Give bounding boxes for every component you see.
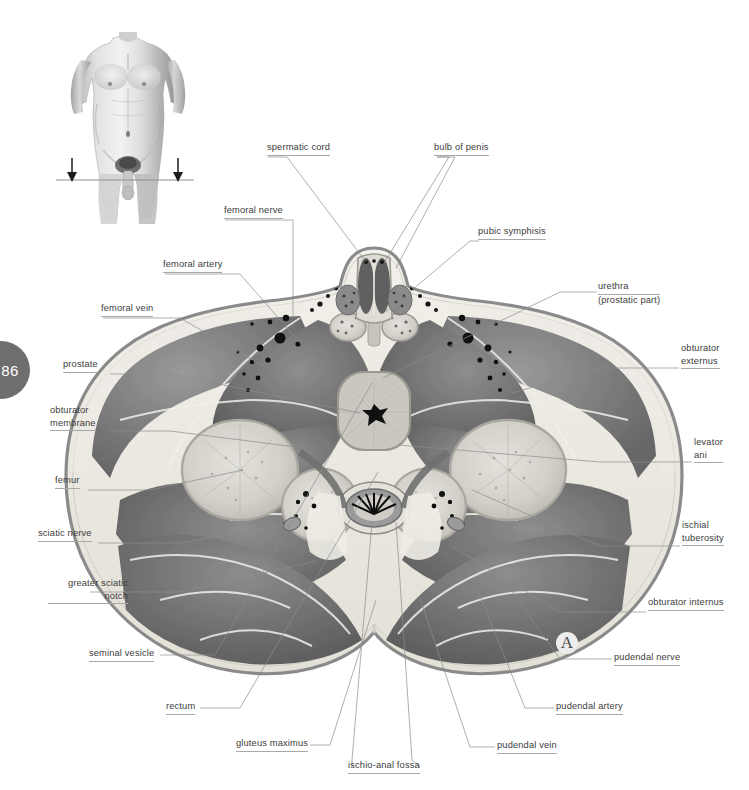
label-greater-sciatic-notch-line-2: notch [48, 591, 128, 605]
label-obturator-externus-line-2: externus [681, 356, 720, 370]
label-femur: femur [55, 475, 80, 489]
label-ischial-tuberosity: ischialtuberosity [682, 520, 724, 546]
label-urethra-line-2: (prostatic part) [598, 295, 660, 308]
label-pudendal-nerve-line-1: pudendal nerve [614, 652, 680, 666]
label-gluteus-maximus-line-1: gluteus maximus [236, 738, 308, 752]
label-femoral-artery: femoral artery [163, 259, 222, 273]
label-seminal-vesicle-line-1: seminal vesicle [89, 648, 154, 662]
label-pudendal-artery-line-1: pudendal artery [556, 701, 623, 715]
label-rectum: rectum [166, 701, 195, 715]
label-femoral-artery-line-1: femoral artery [163, 259, 222, 273]
label-spermatic-cord: spermatic cord [267, 142, 330, 156]
label-spermatic-cord-line-1: spermatic cord [267, 142, 330, 156]
label-prostate-line-1: prostate [63, 359, 98, 373]
label-prostate: prostate [63, 359, 98, 373]
label-sciatic-nerve-line-1: sciatic nerve [38, 528, 92, 542]
label-obturator-membrane: obturatormembrane [50, 405, 96, 431]
leader-line-bulb-of-penis-b [396, 157, 455, 268]
label-levator-ani-line-1: levator [694, 437, 723, 450]
label-bulb-of-penis: bulb of penis [434, 142, 489, 156]
leader-line-bulb-of-penis-a [384, 157, 449, 263]
label-gluteus-maximus: gluteus maximus [236, 738, 308, 752]
label-obturator-membrane-line-2: membrane [50, 418, 96, 432]
label-pubic-symphisis-line-1: pubic symphisis [478, 226, 546, 240]
label-femoral-nerve-line-1: femoral nerve [224, 205, 283, 219]
label-femur-line-1: femur [55, 475, 80, 489]
label-urethra-line-1: urethra [598, 281, 660, 295]
label-obturator-internus-line-1: obturator internus [648, 597, 724, 611]
figure-marker-letter: A [561, 633, 573, 653]
label-femoral-vein: femoral vein [101, 303, 153, 317]
label-seminal-vesicle: seminal vesicle [89, 648, 154, 662]
label-ischio-anal-fossa: ischio-anal fossa [348, 760, 420, 774]
label-obturator-internus: obturator internus [648, 597, 724, 611]
label-bulb-of-penis-line-1: bulb of penis [434, 142, 489, 156]
label-pudendal-artery: pudendal artery [556, 701, 623, 715]
label-obturator-externus: obturatorexternus [681, 343, 720, 369]
label-pudendal-nerve: pudendal nerve [614, 652, 680, 666]
label-rectum-line-1: rectum [166, 701, 195, 715]
label-obturator-membrane-line-1: obturator [50, 405, 96, 418]
label-pudendal-vein: pudendal vein [497, 740, 557, 754]
atlas-page: 86 [0, 0, 749, 790]
label-urethra: urethra(prostatic part) [598, 281, 660, 307]
pelvis-cross-section-illustration [0, 0, 749, 790]
label-ischial-tuberosity-line-2: tuberosity [682, 533, 724, 547]
label-sciatic-nerve: sciatic nerve [38, 528, 92, 542]
label-levator-ani-line-2: ani [694, 450, 723, 464]
label-greater-sciatic-notch: greater sciaticnotch [48, 578, 128, 604]
label-levator-ani: levatorani [694, 437, 723, 463]
label-ischial-tuberosity-line-1: ischial [682, 520, 724, 533]
label-ischio-anal-fossa-line-1: ischio-anal fossa [348, 760, 420, 774]
label-pudendal-vein-line-1: pudendal vein [497, 740, 557, 754]
figure-marker-a: A [556, 632, 578, 654]
label-femoral-vein-line-1: femoral vein [101, 303, 153, 317]
label-obturator-externus-line-1: obturator [681, 343, 720, 356]
label-greater-sciatic-notch-line-1: greater sciatic [48, 578, 128, 591]
anal-canal [338, 482, 410, 534]
label-femoral-nerve: femoral nerve [224, 205, 283, 219]
label-pubic-symphisis: pubic symphisis [478, 226, 546, 240]
